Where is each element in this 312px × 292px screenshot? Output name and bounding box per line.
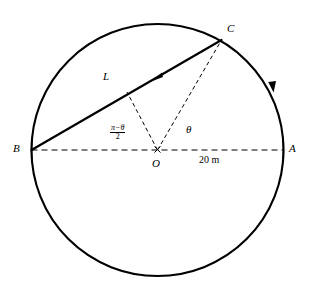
angle-label-theta: θ xyxy=(186,124,191,135)
chord-length-label-l: L xyxy=(103,71,109,82)
point-label-b: B xyxy=(13,143,20,154)
point-label-a: A xyxy=(289,143,296,154)
angle-fraction-denominator: 2 xyxy=(110,133,125,141)
chord-line-BC xyxy=(32,40,222,150)
geometry-canvas xyxy=(0,0,312,292)
point-label-c: C xyxy=(227,23,234,34)
radius-line-O-to-chord xyxy=(127,92,158,150)
radius-dimension-label: 20 m xyxy=(199,155,219,165)
chord-direction-arrow-icon xyxy=(151,73,163,82)
angle-label-half-pi-minus-theta: π−θ 2 xyxy=(110,124,125,142)
circle-geometry-figure: A B C O L 20 m θ π−θ 2 xyxy=(0,0,312,292)
point-label-o: O xyxy=(152,158,160,169)
